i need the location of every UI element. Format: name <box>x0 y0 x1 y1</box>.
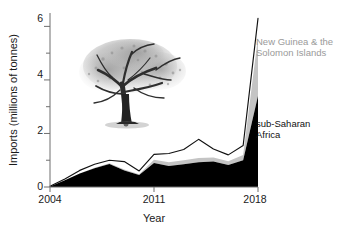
y-tick-label-0: 0 <box>37 180 43 192</box>
y-tick-label-4: 4 <box>37 68 43 80</box>
y-tick-label-6: 6 <box>37 12 43 24</box>
legend-new-guinea-solomon-islands: New Guinea & the Solomon Islands <box>256 36 333 58</box>
x-tick-label-2018: 2018 <box>243 193 267 205</box>
x-tick-label-2004: 2004 <box>38 193 62 205</box>
chart-figure: 6 4 2 0 2004 2011 2018 Imports (millions… <box>0 0 353 231</box>
imports-area-chart: 6 4 2 0 2004 2011 2018 Imports (millions… <box>0 0 353 231</box>
x-axis-title: Year <box>143 212 166 224</box>
y-axis-title: Imports (millions of tonnes) <box>7 34 19 166</box>
legend-sub-saharan-africa: sub-Saharan Africa <box>256 118 310 140</box>
y-tick-label-2: 2 <box>37 124 43 136</box>
x-tick-label-2011: 2011 <box>143 193 166 205</box>
